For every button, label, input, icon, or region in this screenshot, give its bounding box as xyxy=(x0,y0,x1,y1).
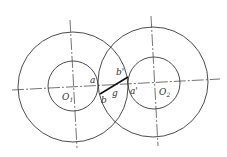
vertical-centerline-o2 xyxy=(151,16,158,146)
label-o1: O1 xyxy=(62,92,73,103)
label-a: a xyxy=(90,75,95,85)
outer-circle-o2 xyxy=(98,27,208,137)
vertical-centerline-o1 xyxy=(70,20,77,148)
label-g: g xyxy=(112,88,118,98)
gear-diagram: O1 O2 a b g a' b' xyxy=(0,0,227,157)
label-o2: O2 xyxy=(159,87,170,98)
inner-circle-o2 xyxy=(128,57,180,109)
label-b: b xyxy=(101,95,107,105)
label-b-prime: b' xyxy=(116,67,124,77)
label-a-prime: a' xyxy=(130,86,138,96)
